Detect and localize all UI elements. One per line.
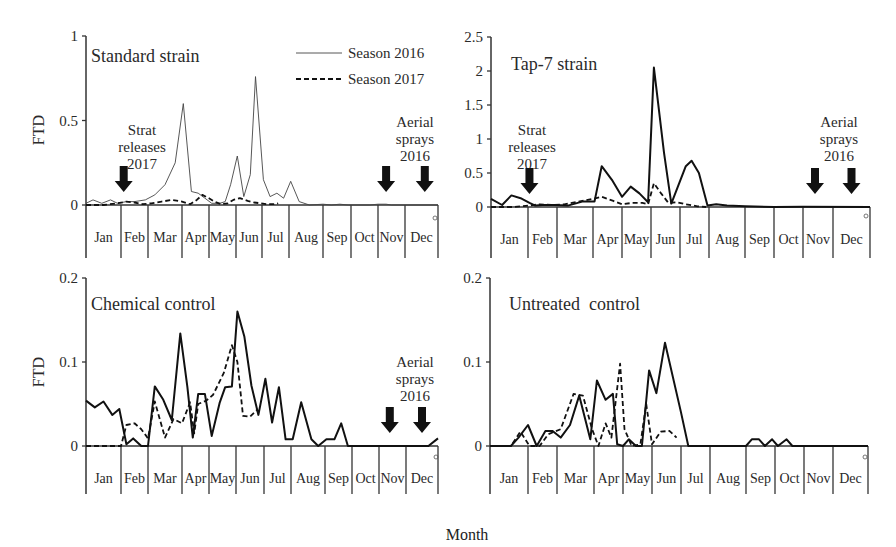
strat-releases-annotation: releases xyxy=(508,139,556,155)
x-tick-label-mar: Mar xyxy=(563,232,587,247)
strat-releases-annotation: releases xyxy=(118,139,166,155)
x-tick-label-jun: Jun xyxy=(239,230,258,245)
x-tick-label-dec: Dec xyxy=(839,471,862,486)
x-tick-label-may: May xyxy=(210,471,236,486)
figure-canvas: 00.51JanFebMarAprMayJunJulAugSepOctNovDe… xyxy=(0,0,896,547)
x-tick-label-apr: Apr xyxy=(185,230,207,245)
x-tick-label-nov: Nov xyxy=(806,471,830,486)
y-tick-label: 1 xyxy=(476,131,484,147)
y-tick-label: 0.5 xyxy=(59,113,78,129)
x-tick-label-aug: Aug xyxy=(715,232,739,247)
strat-releases-annotation: Strat xyxy=(518,122,547,138)
x-tick-label-may: May xyxy=(624,232,650,247)
y-tick-label: 2.5 xyxy=(464,29,483,45)
x-tick-label-feb: Feb xyxy=(532,471,553,486)
circle-marker-icon xyxy=(433,216,437,220)
legend-label-season-2016: Season 2016 xyxy=(348,45,425,61)
y-tick-label: 1.5 xyxy=(464,97,483,113)
x-tick-label-jun: Jun xyxy=(657,471,676,486)
down-arrow-icon xyxy=(806,168,824,194)
y-axis-title: FTD xyxy=(30,357,47,387)
y-tick-label: 1 xyxy=(71,28,79,44)
x-tick-label-feb: Feb xyxy=(124,230,145,245)
series-line-season-2017 xyxy=(86,195,278,205)
x-tick-label-aug: Aug xyxy=(716,471,740,486)
x-tick-label-oct: Oct xyxy=(354,230,374,245)
x-tick-label-jul: Jul xyxy=(687,471,703,486)
y-tick-label: 0 xyxy=(71,438,79,454)
x-tick-label-mar: Mar xyxy=(153,471,177,486)
panel-title: Chemical control xyxy=(91,294,215,314)
x-tick-label-sep: Sep xyxy=(749,232,770,247)
aerial-sprays-annotation: Aerial xyxy=(820,114,857,130)
x-tick-label-oct: Oct xyxy=(355,471,375,486)
y-tick-label: 0.2 xyxy=(463,270,482,286)
strat-releases-annotation: Strat xyxy=(128,122,157,138)
x-tick-label-dec: Dec xyxy=(840,232,863,247)
chart-panel-standard-strain: 00.51JanFebMarAprMayJunJulAugSepOctNovDe… xyxy=(30,28,438,258)
aerial-sprays-annotation: Aerial xyxy=(396,354,433,370)
down-arrow-icon xyxy=(377,166,395,192)
down-arrow-icon xyxy=(381,407,399,433)
y-tick-label: 0.1 xyxy=(59,354,78,370)
panel-title: Tap-7 strain xyxy=(511,54,597,74)
y-tick-label: 2 xyxy=(476,63,484,79)
x-tick-label-may: May xyxy=(210,230,236,245)
y-tick-label: 0 xyxy=(475,438,483,454)
x-tick-label-mar: Mar xyxy=(564,471,588,486)
down-arrow-icon xyxy=(416,166,434,192)
aerial-sprays-annotation: Aerial xyxy=(396,114,433,130)
x-tick-label-dec: Dec xyxy=(410,230,433,245)
x-axis-title: Month xyxy=(0,526,896,544)
x-tick-label-apr: Apr xyxy=(597,232,619,247)
y-tick-label: 0.1 xyxy=(463,354,482,370)
x-tick-label-jul: Jul xyxy=(267,230,283,245)
y-tick-label: 0 xyxy=(476,199,484,215)
y-tick-label: 0.5 xyxy=(464,165,483,181)
x-tick-label-may: May xyxy=(625,471,651,486)
x-tick-label-jan: Jan xyxy=(500,471,519,486)
x-tick-label-jun: Jun xyxy=(240,471,259,486)
x-tick-label-mar: Mar xyxy=(153,230,177,245)
x-tick-label-aug: Aug xyxy=(296,471,320,486)
aerial-sprays-annotation: 2016 xyxy=(824,148,855,164)
x-tick-label-apr: Apr xyxy=(185,471,207,486)
aerial-sprays-annotation: sprays xyxy=(396,131,434,147)
chart-panel-chemical-control: 00.10.2JanFebMarAprMayJunJulAugSepOctNov… xyxy=(30,270,438,494)
x-tick-label-jan: Jan xyxy=(94,230,113,245)
x-tick-label-jan: Jan xyxy=(500,232,519,247)
y-tick-label: 0.2 xyxy=(59,270,78,286)
x-tick-label-feb: Feb xyxy=(532,232,553,247)
aerial-sprays-annotation: 2016 xyxy=(400,388,431,404)
panel-title: Untreated control xyxy=(509,294,640,314)
aerial-sprays-annotation: sprays xyxy=(396,371,434,387)
x-tick-label-apr: Apr xyxy=(598,471,620,486)
x-tick-label-jan: Jan xyxy=(94,471,113,486)
x-tick-label-oct: Oct xyxy=(779,471,799,486)
aerial-sprays-annotation: sprays xyxy=(820,131,858,147)
panel-title: Standard strain xyxy=(91,46,199,66)
x-tick-label-jul: Jul xyxy=(686,232,702,247)
y-axis-title: FTD xyxy=(30,115,47,145)
x-tick-label-oct: Oct xyxy=(778,232,798,247)
x-tick-label-feb: Feb xyxy=(124,471,145,486)
down-arrow-icon xyxy=(843,168,861,194)
circle-marker-icon xyxy=(864,214,868,218)
x-tick-label-jul: Jul xyxy=(269,471,285,486)
x-tick-label-dec: Dec xyxy=(411,471,434,486)
y-tick-label: 0 xyxy=(71,197,79,213)
x-tick-label-sep: Sep xyxy=(327,230,348,245)
x-tick-label-aug: Aug xyxy=(294,230,318,245)
legend: Season 2016Season 2017 xyxy=(296,45,425,87)
x-tick-label-sep: Sep xyxy=(328,471,349,486)
circle-marker-icon xyxy=(863,455,867,459)
chart-panel-tap-7-strain: 00.511.522.5JanFebMarAprMayJunJulAugSepO… xyxy=(464,29,870,258)
x-tick-label-nov: Nov xyxy=(379,230,403,245)
strat-releases-annotation: 2017 xyxy=(127,156,158,172)
down-arrow-icon xyxy=(413,407,431,433)
legend-label-season-2017: Season 2017 xyxy=(348,71,425,87)
chart-panel-untreated-control: 00.10.2JanFebMarAprMayJunJulAugSepOctNov… xyxy=(463,270,868,494)
series-line-season-2016 xyxy=(490,343,868,446)
x-tick-label-jun: Jun xyxy=(656,232,675,247)
series-line-season-2017 xyxy=(86,345,257,446)
